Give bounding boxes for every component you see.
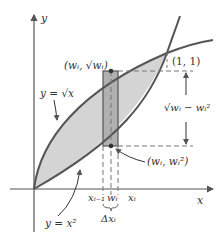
height-label: √wᵢ − wᵢ² bbox=[164, 103, 210, 113]
tick-w-i: wᵢ bbox=[107, 193, 118, 203]
top-point-label: (wᵢ, √wᵢ) bbox=[64, 60, 108, 71]
top-point-dot bbox=[109, 69, 114, 74]
shaded-region bbox=[34, 53, 167, 189]
delta-x-brace bbox=[103, 204, 118, 211]
x2-label-leader bbox=[58, 170, 80, 216]
tick-x-i-minus-1: xᵢ₋₁ bbox=[88, 193, 105, 203]
diagram-canvas bbox=[0, 0, 223, 245]
sqrt-curve-label: y = √x bbox=[40, 88, 74, 99]
delta-x-label: Δxᵢ bbox=[101, 214, 116, 224]
intersection-label: (1, 1) bbox=[172, 56, 200, 67]
sqrt-label-leader bbox=[54, 100, 57, 120]
x2-curve-label: y = x² bbox=[45, 218, 77, 229]
bottom-point-leader bbox=[116, 149, 145, 162]
x-axis-label: x bbox=[197, 195, 203, 206]
bottom-point-label: (wᵢ, wᵢ²) bbox=[147, 156, 188, 167]
bottom-point-dot bbox=[109, 144, 114, 149]
y-axis-label: y bbox=[41, 13, 47, 24]
tick-x-i: xᵢ bbox=[128, 193, 136, 203]
